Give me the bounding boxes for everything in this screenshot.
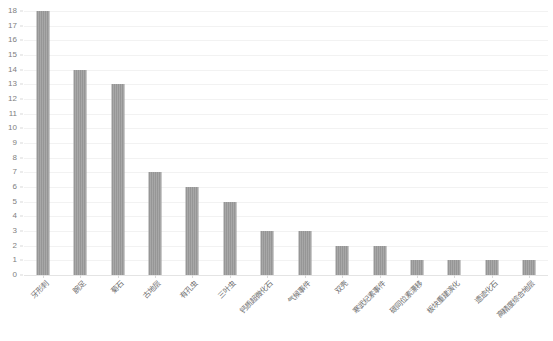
bar-chart: 1817161514131211109876543210 牙形刺腕足菊石古地层有… [0, 0, 553, 341]
y-axis-tick-mark [20, 201, 23, 202]
y-axis-tick-label: 3 [13, 227, 17, 235]
y-axis-tick-mark [20, 260, 23, 261]
bar[interactable] [223, 202, 236, 275]
y-axis-tick-label: 12 [8, 95, 17, 103]
bar-slot [99, 11, 136, 275]
y-axis-tick-label: 10 [8, 124, 17, 132]
x-axis-tick-mark [454, 275, 455, 278]
y-axis-tick-mark [20, 245, 23, 246]
bar[interactable] [111, 84, 124, 275]
y-axis-tick-label: 9 [13, 139, 17, 147]
y-axis-tick-mark [20, 187, 23, 188]
y-axis-tick-label: 2 [13, 242, 17, 250]
bar[interactable] [148, 172, 161, 275]
bar-slot [473, 11, 510, 275]
bar-slot [436, 11, 473, 275]
y-axis-tick-mark [20, 231, 23, 232]
y-axis: 1817161514131211109876543210 [0, 11, 22, 275]
bar[interactable] [373, 246, 386, 275]
bar-slot [249, 11, 286, 275]
y-axis-tick-mark [20, 113, 23, 114]
y-axis-tick-label: 14 [8, 66, 17, 74]
y-axis-tick-mark [20, 172, 23, 173]
y-axis-tick-mark [20, 25, 23, 26]
y-axis-tick-label: 6 [13, 183, 17, 191]
bar[interactable] [448, 260, 461, 275]
y-axis-tick-label: 5 [13, 198, 17, 206]
y-axis-tick-mark [20, 55, 23, 56]
bar[interactable] [261, 231, 274, 275]
x-axis-tick-label: 牙形刺 [0, 281, 48, 341]
y-axis-tick-label: 8 [13, 154, 17, 162]
y-axis-tick-label: 0 [13, 271, 17, 279]
y-axis-tick-mark [20, 128, 23, 129]
y-axis-tick-mark [20, 143, 23, 144]
y-axis-tick-label: 15 [8, 51, 17, 59]
y-axis-tick-label: 4 [13, 212, 17, 220]
gridline [24, 275, 548, 276]
y-axis-tick-mark [20, 40, 23, 41]
y-axis-tick-label: 16 [8, 36, 17, 44]
bar-slot [61, 11, 98, 275]
x-axis-tick-mark [529, 275, 530, 278]
x-axis-tick-mark [192, 275, 193, 278]
y-axis-tick-mark [20, 11, 23, 12]
bar-slot [24, 11, 61, 275]
bar-slot [174, 11, 211, 275]
bar[interactable] [36, 11, 49, 275]
bar-slot [323, 11, 360, 275]
x-axis-tick-mark [267, 275, 268, 278]
y-axis-tick-mark [20, 69, 23, 70]
y-axis-tick-mark [20, 84, 23, 85]
y-axis-tick-label: 1 [13, 256, 17, 264]
y-axis-tick-label: 17 [8, 22, 17, 30]
bar[interactable] [523, 260, 536, 275]
bar-slot [511, 11, 548, 275]
bar[interactable] [298, 231, 311, 275]
y-axis-tick-mark [20, 157, 23, 158]
bar[interactable] [485, 260, 498, 275]
bar[interactable] [74, 70, 87, 275]
plot-area [24, 11, 548, 275]
y-axis-tick-mark [20, 99, 23, 100]
bar-slot [211, 11, 248, 275]
bar-slot [286, 11, 323, 275]
bar-slot [398, 11, 435, 275]
bar-slot [361, 11, 398, 275]
y-axis-tick-mark [20, 216, 23, 217]
bar[interactable] [410, 260, 423, 275]
bar[interactable] [336, 246, 349, 275]
y-axis-tick-label: 11 [9, 110, 17, 118]
y-axis-tick-mark [20, 275, 23, 276]
y-axis-tick-label: 7 [13, 168, 17, 176]
y-axis-tick-label: 18 [8, 7, 17, 15]
bar-slot [136, 11, 173, 275]
y-axis-tick-label: 13 [8, 80, 17, 88]
bar[interactable] [186, 187, 199, 275]
